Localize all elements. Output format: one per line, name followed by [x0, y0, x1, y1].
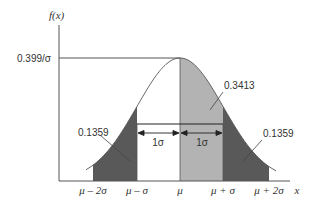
center-right-area	[180, 58, 223, 181]
area-label-center-right: 0.3413	[224, 80, 255, 91]
x-axis-label: x	[294, 184, 300, 196]
interval-label-right: 1σ	[196, 137, 209, 148]
normal-distribution-diagram: 1σ 1σ 0.3413 0.1359 0.1359 f(x) 0.399/σ …	[0, 0, 313, 206]
tick-mu-minus-2sigma: μ – 2σ	[78, 184, 107, 196]
tick-mu-minus-sigma: μ – σ	[125, 184, 149, 196]
interval-label-left: 1σ	[152, 137, 165, 148]
area-label-right-tail: 0.1359	[263, 128, 294, 139]
tick-mu-plus-2sigma: μ + 2σ	[253, 184, 284, 196]
tick-mu-plus-sigma: μ + σ	[210, 184, 235, 196]
tick-mu: μ	[176, 184, 183, 196]
y-axis-label: f(x)	[49, 9, 65, 22]
area-label-left-tail: 0.1359	[78, 127, 109, 138]
peak-value-label: 0.399/σ	[17, 53, 52, 64]
